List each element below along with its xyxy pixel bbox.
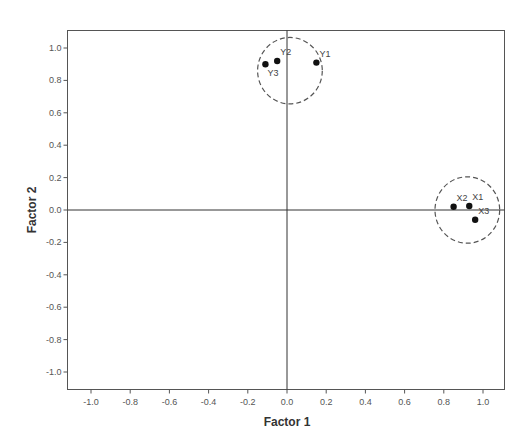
point-label-x1: X1 [472,192,483,202]
point-label-y3: Y3 [267,68,278,78]
y-tick-label: 0.6 [49,108,62,118]
y-tick-label: -0.4 [46,270,62,280]
data-point-y3 [262,61,268,67]
factor-scatter-chart: -1.0-0.8-0.6-0.4-0.20.00.20.40.60.81.0 1… [0,0,523,448]
y-tick-label: 0.0 [49,205,62,215]
data-point-x1 [466,203,472,209]
x-tick-label: -0.4 [201,397,217,407]
data-point-y1 [313,59,319,65]
point-label-x2: X2 [457,193,468,203]
data-point-x2 [450,204,456,210]
x-tick-label: 0.4 [359,397,372,407]
data-point-y2 [274,58,280,64]
y-tick-label: -0.8 [46,335,62,345]
x-tick-label: -0.2 [240,397,256,407]
x-tick-label: 0.0 [281,397,294,407]
x-tick-label: 0.2 [320,397,333,407]
x-tick-label: 0.8 [438,397,451,407]
point-label-y1: Y1 [319,49,330,59]
y-tick-label: 1.0 [49,43,62,53]
point-label-x3: X3 [478,206,489,216]
y-tick-label: 0.2 [49,173,62,183]
x-tick-label: 1.0 [477,397,490,407]
x-tick-label: -1.0 [83,397,99,407]
y-tick-label: -1.0 [46,367,62,377]
data-point-x3 [472,217,478,223]
y-tick-label: -0.6 [46,302,62,312]
x-axis-title: Factor 1 [264,415,311,429]
y-tick-label: 0.4 [49,140,62,150]
x-tick-label: -0.6 [162,397,178,407]
y-axis-title: Factor 2 [25,186,39,233]
y-tick-label: 0.8 [49,75,62,85]
point-label-y2: Y2 [280,47,291,57]
y-tick-label: -0.2 [46,237,62,247]
x-tick-label: -0.8 [122,397,138,407]
x-tick-label: 0.6 [398,397,411,407]
